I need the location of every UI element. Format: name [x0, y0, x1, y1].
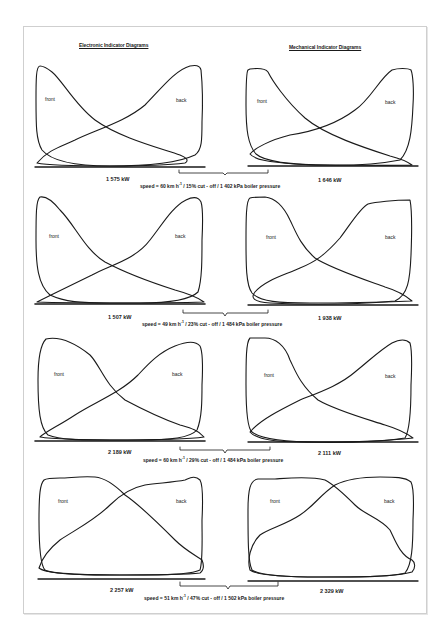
row1-electronic-power: 1 575 kW — [106, 176, 130, 182]
row2-mechanical-front-label: front — [266, 234, 276, 240]
row3-mechanical-power: 2 111 kW — [318, 450, 341, 456]
row4-mechanical-diagram — [248, 477, 418, 581]
row1-mechanical-front-label: front — [257, 98, 267, 104]
row1-electronic-diagram — [35, 65, 205, 167]
row1-electronic-back-label: back — [176, 97, 187, 103]
row2-electronic-back-label: back — [175, 233, 186, 239]
indicator-diagrams-figure — [0, 0, 443, 631]
row3-brace — [180, 447, 270, 453]
row2-brace — [183, 310, 268, 316]
row2-electronic-front-label: front — [49, 233, 59, 239]
row1-brace — [179, 170, 268, 175]
row3-mechanical-back-label: back — [385, 373, 396, 379]
row4-electronic-diagram — [38, 477, 205, 579]
row2-mechanical-back-label: back — [385, 234, 396, 240]
row2-caption: speed = 49 km h-1 / 23% cut - off / 1 48… — [142, 320, 282, 327]
row3-caption: speed = 60 km h-1 / 29% cut - off / 1 48… — [143, 456, 283, 463]
row4-mechanical-back-label: back — [384, 498, 395, 504]
row4-caption: speed = 51 km h-1 / 47% cut - off / 1 50… — [144, 594, 284, 601]
row3-mechanical-front-label: front — [264, 372, 274, 378]
row3-electronic-front-label: front — [54, 371, 64, 377]
row1-caption: speed = 60 km h-1 / 15% cut - off / 1 40… — [140, 182, 280, 189]
row1-mechanical-back-label: back — [385, 99, 396, 105]
row2-electronic-power: 1 507 kW — [108, 314, 132, 320]
row4-electronic-front-label: front — [58, 498, 68, 504]
row3-electronic-power: 2 189 kW — [108, 449, 132, 455]
row4-mechanical-power: 2 329 kW — [320, 588, 344, 594]
row1-mechanical-power: 1 646 kW — [318, 177, 342, 183]
row3-electronic-back-label: back — [172, 371, 183, 377]
row4-mechanical-front-label: front — [270, 498, 280, 504]
row1-electronic-front-label: front — [45, 96, 55, 102]
row2-electronic-diagram — [35, 197, 205, 304]
row3-electronic-diagram — [35, 338, 205, 441]
row2-mechanical-diagram — [246, 197, 418, 305]
row2-mechanical-power: 1 938 kW — [318, 315, 342, 321]
row4-electronic-back-label: back — [176, 498, 187, 504]
row4-brace — [180, 582, 278, 589]
row4-electronic-power: 2 257 kW — [110, 587, 134, 593]
row3-mechanical-diagram — [246, 338, 418, 442]
row1-mechanical-diagram — [246, 68, 418, 166]
